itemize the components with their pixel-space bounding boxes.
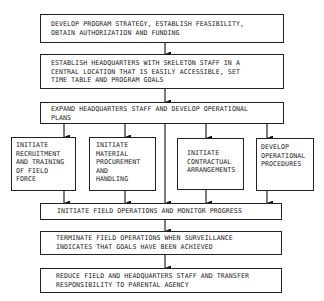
step-reduce-staff-transfer: REDUCE FIELD AND HEADQUARTERS STAFF AND … [40,268,282,293]
step-terminate-field-operations: TERMINATE FIELD OPERATIONS WHEN SURVEILL… [40,231,282,255]
step-expand-staff: EXPAND HEADQUARTERS STAFF AND DEVELOP OP… [40,102,284,124]
step-recruitment-training: INITIATE RECRUITMENT AND TRAINING OF FIE… [11,137,76,191]
step-contractual-arrangements: INITIATE CONTRACTUAL ARRANGEMENTS [177,138,244,190]
step-establish-headquarters: ESTABLISH HEADQUARTERS WITH SKELETON STA… [40,54,284,89]
step-operational-procedures: DEVELOP OPERATIONAL PROCEDURES [256,138,314,191]
step-develop-strategy: DEVELOP PROGRAM STRATEGY, ESTABLISH FEAS… [40,14,284,43]
step-initiate-field-operations: INITIATE FIELD OPERATIONS AND MONITOR PR… [40,203,282,220]
step-material-procurement: INITIATE MATERIAL PROCUREMENT AND HANDLI… [89,137,156,191]
